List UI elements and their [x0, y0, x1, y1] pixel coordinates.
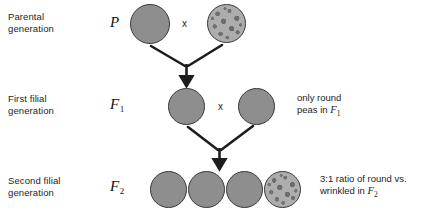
parental-to-f1-arrow	[151, 45, 222, 81]
f1-generation-symbol: F1	[110, 96, 124, 113]
f2-note-subscript: 2	[374, 190, 378, 199]
f1-note-symbol-italic: F1	[330, 104, 340, 115]
f2-note-symbol: F	[368, 185, 374, 196]
f2-note-symbol-italic: F2	[368, 185, 378, 196]
f1-note-symbol: F	[330, 104, 336, 115]
generation-symbol-subscript: 2	[120, 186, 125, 196]
f1-round-pea-left	[168, 88, 205, 125]
f2-wrinkled-pea-4	[264, 171, 301, 208]
mendel-cross-diagram: Parental generation P x First filial gen…	[0, 0, 426, 213]
f1-round-pea-right	[238, 88, 275, 125]
f1-note-line1: only round	[297, 92, 341, 103]
f1-note-line2-prefix: peas in	[297, 104, 330, 115]
generation-symbol-text: F	[110, 178, 119, 194]
f1-to-f2-arrow	[188, 126, 253, 164]
f2-generation-symbol: F2	[110, 178, 124, 195]
parental-cross-mark: x	[182, 18, 187, 29]
generation-symbol-text: F	[110, 96, 119, 112]
f2-note-line1: 3:1 ratio of round vs.	[320, 173, 407, 184]
parental-round-pea	[130, 4, 170, 44]
second-filial-generation-label: Second filial generation	[8, 175, 61, 198]
f1-note-subscript: 1	[337, 109, 341, 118]
f2-round-pea-2	[188, 171, 225, 208]
f1-cross-mark: x	[218, 101, 223, 112]
f2-round-pea-1	[150, 171, 187, 208]
generation-symbol-text: P	[110, 14, 119, 30]
f2-round-pea-3	[226, 171, 263, 208]
parental-generation-symbol: P	[110, 14, 119, 31]
parental-generation-label: Parental generation	[8, 11, 54, 34]
f2-note: 3:1 ratio of round vs.wrinkled in F2	[320, 173, 407, 198]
parental-wrinkled-pea	[207, 4, 246, 43]
generation-symbol-subscript: 1	[120, 104, 125, 114]
f2-note-line2-prefix: wrinkled in	[320, 185, 368, 196]
f1-note: only roundpeas in F1	[297, 92, 341, 117]
first-filial-generation-label: First filial generation	[8, 93, 54, 116]
